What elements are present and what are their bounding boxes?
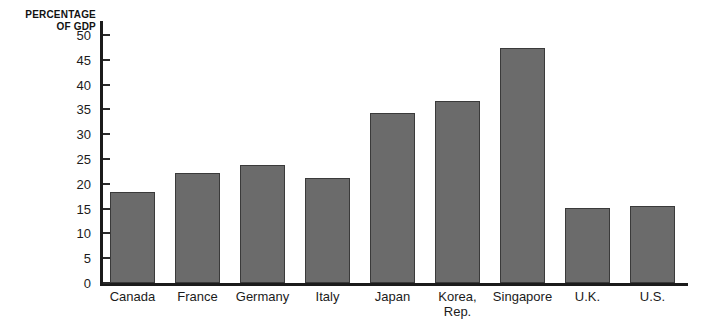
x-category-label-line: Italy [295, 289, 360, 304]
bar-series [100, 35, 688, 283]
bar [305, 178, 350, 283]
y-tick-label: 15 [77, 202, 91, 215]
x-category-label-line: Germany [230, 289, 295, 304]
y-tick-label: 30 [77, 128, 91, 141]
y-tick-label: 45 [77, 53, 91, 66]
bar-slot [100, 35, 165, 283]
y-tick-label: 5 [84, 252, 91, 265]
x-category-label: U.K. [555, 289, 620, 304]
bar-slot [165, 35, 230, 283]
y-tick-label: 50 [77, 29, 91, 42]
bar [435, 101, 480, 283]
x-category-label: France [165, 289, 230, 304]
bar-slot [230, 35, 295, 283]
x-category-label-line: Canada [100, 289, 165, 304]
bar-slot [555, 35, 620, 283]
x-category-label: Korea,Rep. [425, 289, 490, 319]
x-category-label-line: France [165, 289, 230, 304]
y-axis-title-line-1: PERCENTAGE [8, 9, 96, 21]
bar-chart: PERCENTAGE OF GDP 05101520253035404550 C… [0, 0, 706, 327]
x-category-label-line: U.K. [555, 289, 620, 304]
x-category-label-line: Singapore [490, 289, 555, 304]
y-tick-label: 10 [77, 227, 91, 240]
bar [565, 208, 610, 283]
y-tick-label: 0 [84, 277, 91, 290]
x-category-label: Germany [230, 289, 295, 304]
x-category-label: Singapore [490, 289, 555, 304]
bar-slot [425, 35, 490, 283]
bar-slot [360, 35, 425, 283]
y-tick-label: 35 [77, 103, 91, 116]
plot-area: 05101520253035404550 [100, 35, 688, 283]
x-category-label: U.S. [620, 289, 685, 304]
bar-slot [295, 35, 360, 283]
x-category-label-line: Japan [360, 289, 425, 304]
bar [175, 173, 220, 283]
bar [370, 113, 415, 283]
bar [110, 192, 155, 283]
bar [630, 206, 675, 283]
bar-slot [620, 35, 685, 283]
y-tick-label: 25 [77, 153, 91, 166]
x-category-label-line: U.S. [620, 289, 685, 304]
bar [240, 165, 285, 283]
y-tick-label: 20 [77, 177, 91, 190]
x-axis-line [100, 283, 688, 286]
x-axis-category-labels: CanadaFranceGermanyItalyJapanKorea,Rep.S… [100, 289, 688, 325]
x-category-label-line: Rep. [425, 304, 490, 319]
bar [500, 48, 545, 283]
bar-slot [490, 35, 555, 283]
x-category-label: Italy [295, 289, 360, 304]
x-category-label: Canada [100, 289, 165, 304]
x-category-label-line: Korea, [425, 289, 490, 304]
y-tick-label: 40 [77, 78, 91, 91]
x-category-label: Japan [360, 289, 425, 304]
